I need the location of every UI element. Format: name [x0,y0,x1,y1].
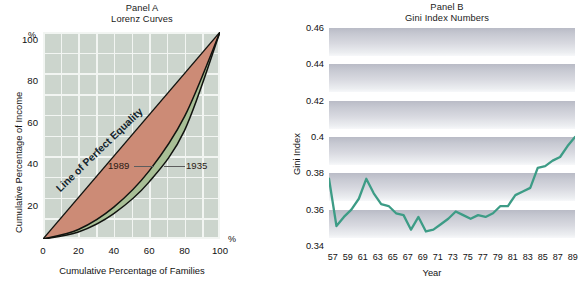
panel-a-annotation-1989: 1989 [108,160,129,171]
panel-a-x-axis-label: Cumulative Percentage of Families [26,265,238,276]
panel-a-xtick-20: 20 [73,245,84,256]
panel-b-title-line1: Panel B [357,2,537,13]
panel-a-xtick-0: 0 [40,245,45,256]
panel-b-xtick-63: 63 [373,252,383,262]
panel-b-ytick-042: 0.42 [282,96,324,106]
panel-a-xtick-60: 60 [144,245,155,256]
panel-a-plot-area [43,32,220,239]
gini-index-line [329,137,575,231]
panel-b-xtick-71: 71 [433,252,443,262]
panel-b-xtick-75: 75 [463,252,473,262]
panel-a-xtick-80: 80 [179,245,190,256]
panel-a-title-line2: Lorenz Curves [62,14,222,25]
panel-a: Panel A Lorenz Curves % Cumulative Perce… [0,0,282,286]
panel-b-line-chart [329,28,575,246]
panel-a-x-percent-symbol: % [228,234,236,244]
panel-b-xtick-81: 81 [508,252,518,262]
line-of-perfect-equality [43,32,220,239]
panel-b-xtick-57: 57 [328,252,338,262]
panel-b-xtick-65: 65 [388,252,398,262]
panel-b-xtick-89: 89 [568,252,578,262]
panel-a-ytick-60: 60 [0,116,38,127]
panel-a-title: Panel A Lorenz Curves [62,3,222,25]
panel-a-title-line1: Panel A [62,3,222,14]
panel-a-leader-1989 [134,166,154,167]
panel-a-annotation-1935: 1935 [186,160,207,171]
figure-root: Panel A Lorenz Curves % Cumulative Perce… [0,0,582,286]
panel-a-ytick-40: 40 [0,158,38,169]
panel-b-ytick-036: 0.36 [282,205,324,215]
panel-b-xtick-85: 85 [538,252,548,262]
panel-b-ytick-044: 0.44 [282,59,324,69]
panel-b-xtick-87: 87 [553,252,563,262]
panel-a-xtick-100: 100 [212,245,228,256]
panel-b-ytick-046: 0.46 [282,23,324,33]
panel-a-leader-1935 [164,166,185,167]
panel-a-ytick-80: 80 [0,75,38,86]
panel-b-title: Panel B Gini Index Numbers [357,2,537,24]
panel-b-xtick-77: 77 [478,252,488,262]
panel-b-title-line2: Gini Index Numbers [357,13,537,24]
panel-b-xtick-73: 73 [448,252,458,262]
panel-a-ytick-100: 100 [0,34,38,45]
panel-a-curves [43,32,220,239]
panel-b: Panel B Gini Index Numbers Gini Index 0.… [282,0,582,286]
panel-a-xtick-40: 40 [108,245,119,256]
panel-b-ytick-038: 0.38 [282,168,324,178]
panel-b-plot-area [329,28,575,246]
panel-b-xtick-59: 59 [343,252,353,262]
panel-b-ytick-04: 0.4 [282,132,324,142]
panel-b-xtick-83: 83 [523,252,533,262]
panel-b-x-axis-label: Year [402,268,462,278]
panel-b-xtick-69: 69 [418,252,428,262]
panel-b-ytick-034: 0.34 [282,241,324,251]
panel-b-xtick-79: 79 [493,252,503,262]
panel-a-ytick-20: 20 [0,199,38,210]
panel-b-xtick-61: 61 [358,252,368,262]
panel-b-xtick-67: 67 [403,252,413,262]
